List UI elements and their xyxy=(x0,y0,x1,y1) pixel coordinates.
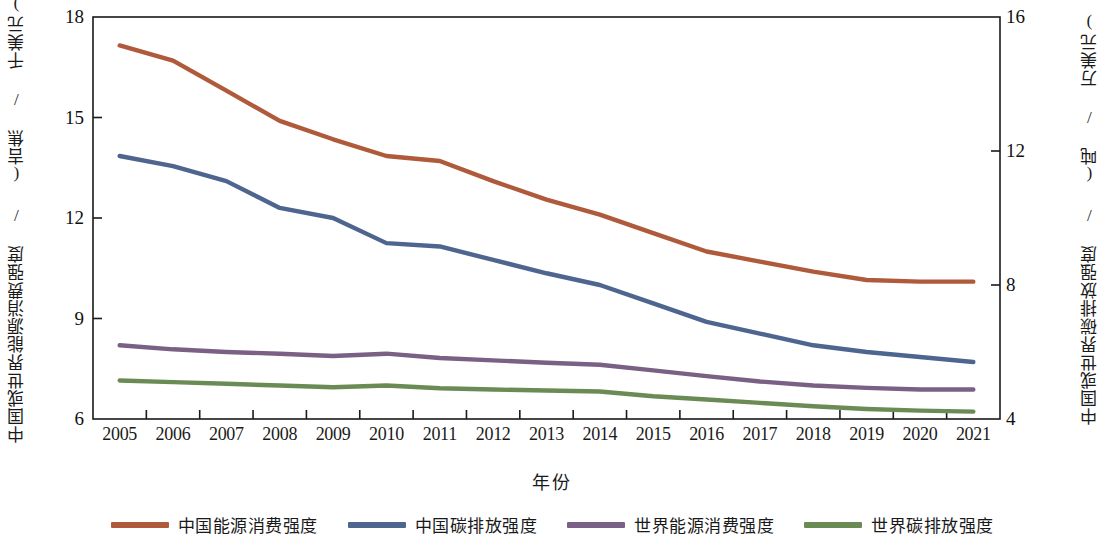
x-axis-tick-label: 2017 xyxy=(743,424,778,445)
legend-swatch-icon xyxy=(567,522,625,528)
chart-legend: 中国能源消费强度中国碳排放强度世界能源消费强度世界碳排放强度 xyxy=(0,512,1104,537)
legend-label: 世界碳排放强度 xyxy=(871,512,994,537)
x-axis-tick-label: 2019 xyxy=(849,424,884,445)
x-axis-tick-label: 2011 xyxy=(423,424,457,445)
x-axis-tick-label: 2010 xyxy=(369,424,404,445)
series-line-1 xyxy=(120,45,974,281)
series-line-2 xyxy=(120,156,974,362)
x-axis-tick-label: 2013 xyxy=(529,424,564,445)
legend-item-2[interactable]: 中国碳排放强度 xyxy=(348,512,538,537)
legend-swatch-icon xyxy=(348,522,406,528)
x-axis-tick-label: 2018 xyxy=(796,424,831,445)
legend-label: 世界能源消费强度 xyxy=(634,512,774,537)
x-axis-tick-label: 2009 xyxy=(316,424,351,445)
chart-figure: 中国或世界能源消费强度 / (吉焦 / 千美元) 中国或世界碳排放强度 / (吨… xyxy=(0,0,1104,550)
x-axis-tick-label: 2015 xyxy=(636,424,671,445)
x-axis-title: 年份 xyxy=(0,468,1104,494)
x-axis-tick-label: 2014 xyxy=(582,424,617,445)
legend-swatch-icon xyxy=(804,522,862,528)
x-axis-tick-label: 2021 xyxy=(956,424,991,445)
legend-label: 中国能源消费强度 xyxy=(178,512,318,537)
legend-label: 中国碳排放强度 xyxy=(415,512,538,537)
x-axis-tick-label: 2016 xyxy=(689,424,724,445)
plot-frame xyxy=(93,17,1000,419)
legend-item-4[interactable]: 世界碳排放强度 xyxy=(804,512,994,537)
legend-item-3[interactable]: 世界能源消费强度 xyxy=(567,512,774,537)
x-axis-tick-labels: 2005200620072008200920102011201220132014… xyxy=(0,424,1104,454)
x-axis-tick-label: 2007 xyxy=(209,424,244,445)
x-axis-tick-label: 2005 xyxy=(102,424,137,445)
x-axis-tick-label: 2008 xyxy=(262,424,297,445)
x-axis-tick-label: 2006 xyxy=(156,424,191,445)
x-axis-tick-label: 2012 xyxy=(476,424,511,445)
legend-swatch-icon xyxy=(111,522,169,528)
x-axis-tick-label: 2020 xyxy=(903,424,938,445)
legend-item-1[interactable]: 中国能源消费强度 xyxy=(111,512,318,537)
